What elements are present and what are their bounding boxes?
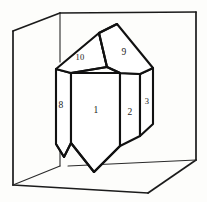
face-label-10: 10 (76, 52, 85, 62)
crystal-figure: 10 9 8 1 2 3 (0, 0, 207, 202)
face-label-8: 8 (59, 100, 64, 110)
face-label-3: 3 (145, 96, 149, 106)
box-edge-top-back-right (60, 12, 196, 13)
face-label-2: 2 (128, 107, 133, 117)
face-label-1: 1 (94, 105, 99, 115)
crystal-diagram-svg: 10 9 8 1 2 3 (0, 0, 207, 202)
box-edge-floor-diagonal-left (13, 166, 60, 185)
face-label-9: 9 (122, 47, 127, 57)
box-edge-bottom-front-right (148, 160, 196, 193)
quartz-crystal (56, 24, 153, 172)
crystal-face-1 (71, 73, 120, 172)
crystal-face-8 (56, 69, 71, 157)
box-edge-bottom-front-left (13, 185, 148, 193)
box-edge-top-back-left (13, 13, 60, 31)
